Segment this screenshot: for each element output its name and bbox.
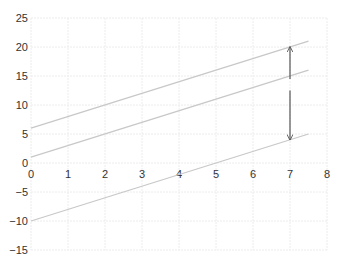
x-tick-label: 2 bbox=[102, 168, 108, 180]
grid bbox=[31, 18, 327, 250]
y-tick-label: 20 bbox=[16, 41, 28, 53]
y-tick-label: −5 bbox=[15, 186, 28, 198]
line-chart: −15−10−50510152025012345678 bbox=[0, 0, 344, 267]
x-tick-label: 6 bbox=[250, 168, 256, 180]
y-axis-labels: −15−10−50510152025 bbox=[9, 12, 28, 256]
x-tick-label: 1 bbox=[65, 168, 71, 180]
x-tick-label: 5 bbox=[213, 168, 219, 180]
y-tick-label: 25 bbox=[16, 12, 28, 24]
x-tick-label: 0 bbox=[28, 168, 34, 180]
series bbox=[31, 41, 309, 221]
x-tick-label: 3 bbox=[139, 168, 145, 180]
y-tick-label: 5 bbox=[22, 128, 28, 140]
x-tick-label: 8 bbox=[324, 168, 330, 180]
y-tick-label: −15 bbox=[9, 244, 28, 256]
y-tick-label: −10 bbox=[9, 215, 28, 227]
x-tick-label: 7 bbox=[287, 168, 293, 180]
series-line bbox=[31, 41, 309, 128]
y-tick-label: 15 bbox=[16, 70, 28, 82]
series-line bbox=[31, 70, 309, 157]
y-tick-label: 10 bbox=[16, 99, 28, 111]
series-line bbox=[31, 134, 309, 221]
